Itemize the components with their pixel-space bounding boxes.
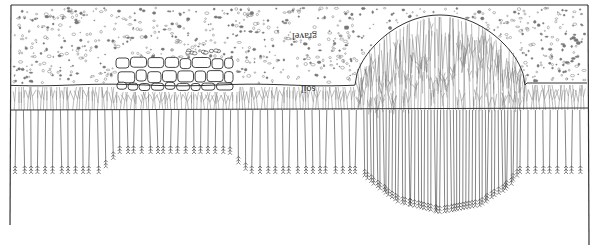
- gravel-label: gravel: [292, 31, 317, 42]
- vertical-roots: [13, 110, 582, 214]
- frame-right: [588, 5, 589, 245]
- soil-label: soil: [301, 84, 315, 95]
- soil-profile-diagram: gravel soil: [0, 0, 601, 251]
- frame-left: [10, 5, 11, 225]
